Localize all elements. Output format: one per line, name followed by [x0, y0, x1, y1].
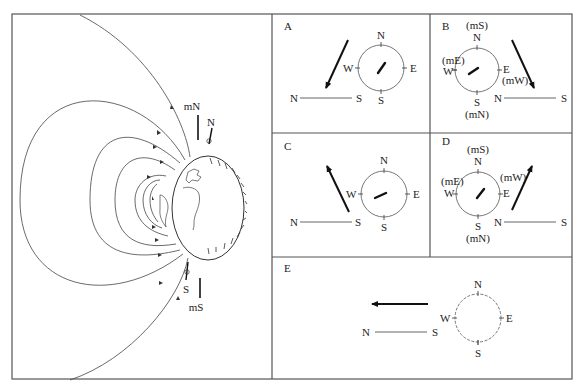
compass-e: N S E W	[440, 278, 513, 359]
magnetic-north-label: mN	[184, 100, 201, 112]
compass-east-c: E	[413, 188, 420, 200]
panel-d: D N S (mS) N S (mN) E (mW) (mE) W	[441, 135, 567, 245]
compass-south-d: S	[475, 220, 481, 232]
compass-west-d: W	[444, 187, 455, 199]
axis-left-a: N	[290, 92, 298, 104]
compass-north-e: N	[474, 278, 482, 290]
geographic-south-label: S	[183, 283, 189, 295]
compass-west-e: W	[440, 312, 451, 324]
panel-b: B N S (mS) N S (mN) E (mW) (mE) W	[442, 19, 567, 121]
axis-right-e: S	[432, 326, 438, 338]
axis-right-b: S	[561, 92, 567, 104]
compass-south-c: S	[381, 221, 387, 233]
compass-north-a: N	[377, 29, 385, 41]
compass-south-e: S	[475, 347, 481, 359]
compass-east-d: E	[503, 187, 510, 199]
figure-frames	[12, 14, 572, 379]
panel-a: A N S N S E W	[284, 20, 417, 106]
compass-needle-b	[469, 68, 478, 74]
panel-e: E N S N S E W	[284, 262, 513, 359]
compass-needle-a	[378, 63, 385, 73]
panel-label-d: D	[442, 135, 450, 147]
compass-needle-d	[477, 189, 484, 198]
compass-east-alt-b: (mW)	[502, 74, 529, 87]
compass-west-a: W	[343, 62, 354, 74]
compass-south-alt-d: (mN)	[466, 232, 490, 245]
panel-label-b: B	[442, 20, 449, 32]
compass-west-b: W	[443, 65, 454, 77]
geographic-north-bar	[209, 128, 212, 144]
compass-east-alt-d: (mW)	[500, 171, 527, 184]
diagram-canvas: mN N S mS A N S N S E W	[0, 0, 584, 392]
panel-c: C N S N S E W	[284, 140, 420, 233]
compass-a: N S E W	[343, 29, 417, 106]
compass-east-e: E	[506, 312, 513, 324]
axis-left-d: N	[494, 216, 502, 228]
axis-right-c: S	[355, 216, 361, 228]
axis-left-e: N	[362, 326, 370, 338]
compass-east-a: E	[410, 62, 417, 74]
compass-west-c: W	[346, 188, 357, 200]
compass-north-d: N	[474, 155, 482, 167]
compass-d: (mS) N S (mN) E (mW) (mE) W	[441, 143, 527, 245]
axis-left-c: N	[290, 216, 298, 228]
axis-right-a: S	[356, 92, 362, 104]
panel-label-e: E	[284, 262, 291, 274]
compass-b: (mS) N S (mN) E (mW) (mE) W	[442, 19, 529, 121]
compass-south-alt-b: (mN)	[465, 108, 489, 121]
compass-north-c: N	[380, 154, 388, 166]
compass-north-b: N	[473, 31, 481, 43]
axis-right-d: S	[561, 216, 567, 228]
axis-left-b: N	[494, 92, 502, 104]
geographic-north-label: N	[207, 116, 215, 128]
main-panel: mN N S mS	[20, 15, 247, 380]
compass-south-a: S	[378, 94, 384, 106]
panel-label-c: C	[284, 140, 291, 152]
outer-frame	[12, 14, 572, 379]
panel-label-a: A	[284, 20, 292, 32]
magnetic-south-label: mS	[189, 301, 204, 313]
compass-south-b: S	[474, 96, 480, 108]
compass-needle-c	[375, 193, 386, 198]
